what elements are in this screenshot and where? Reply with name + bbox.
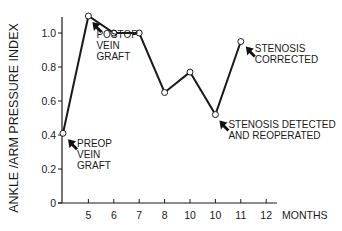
y-tick-label: 0.2 [41, 163, 56, 175]
x-tick-label: 12 [260, 209, 272, 221]
data-point-marker [238, 39, 244, 45]
annotation-text: GRAFT [77, 160, 111, 171]
x-axis-label: MONTHS [282, 209, 328, 221]
annotations: PREOPVEINGRAFTPOSTOPVEINGRAFTSTENOSIS DE… [68, 22, 336, 171]
annotation-text: PREOP [77, 138, 112, 149]
data-series [60, 13, 244, 136]
x-tick-label: 10 [184, 209, 196, 221]
y-axis-label: ANKLE /ARM PRESSURE INDEX [7, 23, 21, 213]
line-chart: ANKLE /ARM PRESSURE INDEX 00.20.40.60.81… [0, 0, 342, 231]
y-tick-label: 1.0 [41, 27, 56, 39]
data-point-marker [162, 90, 168, 96]
y-tick-label: 0.6 [41, 95, 56, 107]
x-tick-label: 10 [210, 209, 222, 221]
x-axis-ticks: 567810101112 [85, 199, 272, 221]
annotation-text: STENOSIS DETECTED [228, 119, 335, 130]
data-point-marker [60, 130, 66, 136]
y-tick-label: 0.8 [41, 61, 56, 73]
annotation-text: VEIN [77, 149, 100, 160]
annotation-text: VEIN [96, 40, 119, 51]
x-tick-label: 7 [136, 209, 142, 221]
annotation-text: CORRECTED [255, 54, 318, 65]
y-axis-title: ANKLE /ARM PRESSURE INDEX [7, 23, 21, 213]
annotation-text: AND REOPERATED [228, 130, 320, 141]
data-point-marker [187, 69, 193, 75]
data-point-marker [85, 13, 91, 19]
annotation-text: GRAFT [96, 51, 130, 62]
axes [58, 17, 277, 203]
y-axis-ticks: 00.20.40.60.81.0 [41, 27, 62, 209]
data-point-marker [212, 112, 218, 118]
x-tick-label: 6 [111, 209, 117, 221]
x-tick-label: 11 [235, 209, 246, 221]
x-tick-label: 5 [85, 209, 91, 221]
annotation-text: POSTOP [96, 29, 138, 40]
y-tick-label: 0.4 [41, 129, 56, 141]
x-tick-label: 8 [162, 209, 168, 221]
y-tick-label: 0 [50, 197, 56, 209]
annotation-text: STENOSIS [255, 43, 306, 54]
